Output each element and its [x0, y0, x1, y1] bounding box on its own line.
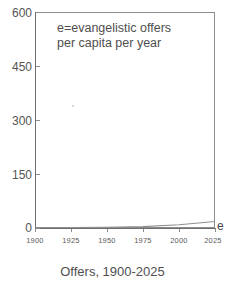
series-e-polyline: [35, 222, 215, 229]
y-tick-label-150: 150: [12, 169, 32, 181]
y-tick-label-300: 300: [12, 115, 32, 127]
x-tick-label-2025: 2025: [204, 236, 222, 245]
x-tick-label-2000: 2000: [170, 236, 188, 245]
x-tick-2000: [179, 229, 180, 232]
chart-title: Offers, 1900-2025: [0, 264, 225, 280]
x-tick-1950: [107, 229, 108, 232]
x-axis-line: [35, 228, 216, 229]
x-tick-label-1925: 1925: [62, 236, 80, 245]
x-tick-1900: [35, 229, 36, 232]
x-tick-1975: [143, 229, 144, 232]
annotation-line-1: e=evangelistic offers: [57, 21, 171, 36]
x-tick-label-1975: 1975: [134, 236, 152, 245]
x-tick-2025: [215, 229, 216, 232]
plot-speck: [72, 105, 74, 107]
x-tick-label-1900: 1900: [26, 236, 44, 245]
chart-annotation: e=evangelistic offers per capita per yea…: [57, 21, 171, 51]
y-tick-label-450: 450: [12, 61, 32, 73]
y-tick-0: [36, 228, 40, 229]
y-tick-label-0: 0: [25, 222, 32, 234]
y-tick-label-600: 600: [12, 7, 32, 19]
series-label-e: e: [217, 220, 224, 232]
x-tick-1925: [71, 229, 72, 232]
chart-figure: 600 450 300 150 0 1900 1925 1950 1975 20…: [0, 0, 225, 294]
annotation-line-2: per capita per year: [57, 36, 171, 51]
x-tick-label-1950: 1950: [98, 236, 116, 245]
